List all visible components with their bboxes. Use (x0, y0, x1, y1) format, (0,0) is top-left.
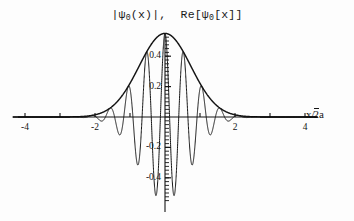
plot-canvas (0, 0, 354, 221)
x-axis-tick-label: 4 (303, 122, 308, 132)
y-axis-tick-label: 0.4 (149, 50, 161, 60)
wave-packet-figure: |ψ0(x)|, Re[ψ0[x]] x/2a -4-224-0.4-0.20.… (0, 0, 354, 221)
x-axis-tick-label: 2 (233, 122, 238, 132)
axes-group (18, 33, 318, 212)
x-axis-tick-label: -2 (91, 122, 99, 132)
x-axis-tick-label: -4 (21, 122, 29, 132)
y-axis-tick-label: -0.4 (146, 172, 161, 182)
y-axis-tick-label: 0.2 (149, 81, 161, 91)
y-axis-tick-label: -0.2 (146, 141, 161, 151)
